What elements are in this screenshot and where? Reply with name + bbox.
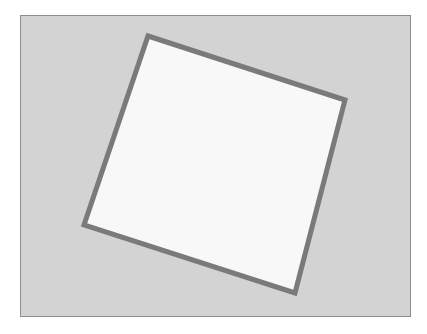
rotated-square-figure [0,0,427,334]
canvas [0,0,427,334]
rotated-square [84,36,345,293]
